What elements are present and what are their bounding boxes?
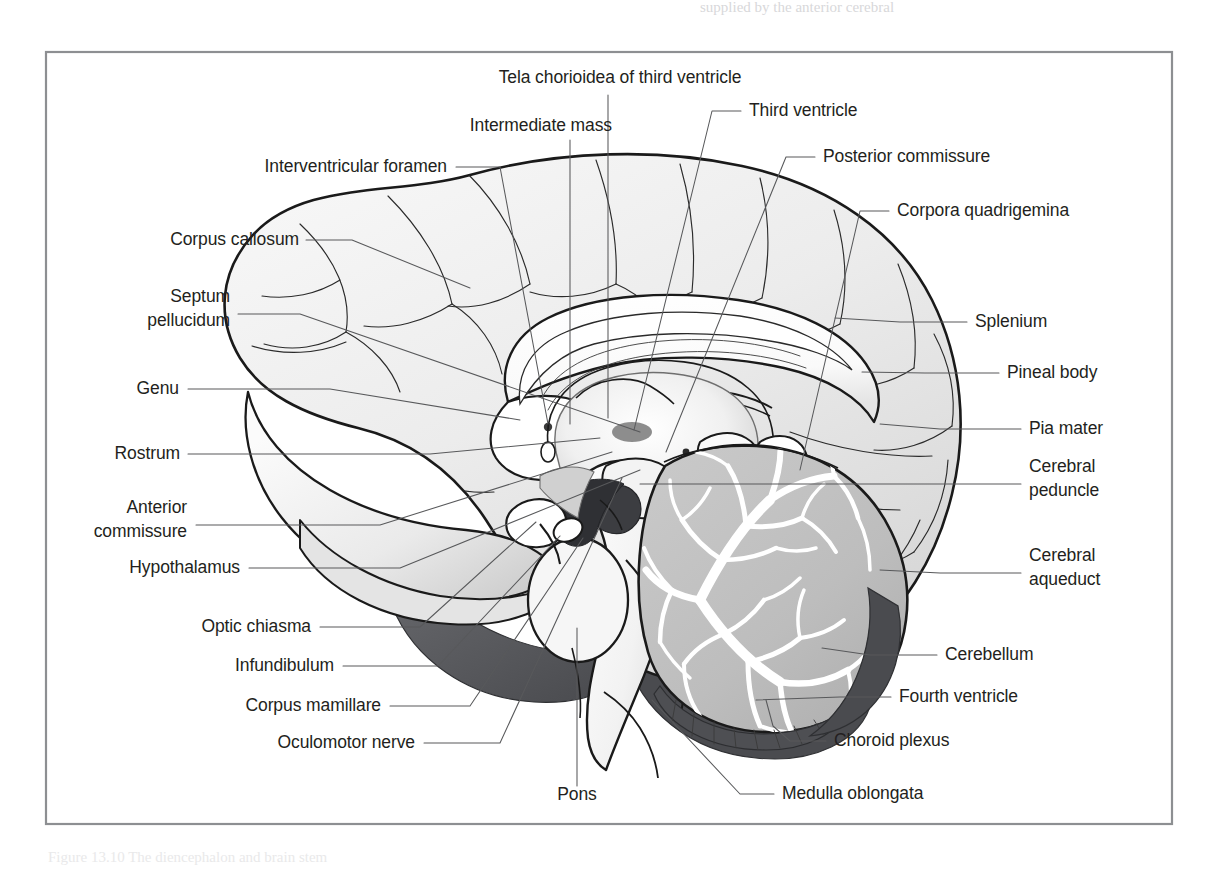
brain-illustration: [225, 154, 961, 778]
anterior-commissure: [541, 442, 555, 462]
label-optic-chiasma: Optic chiasma: [201, 616, 311, 636]
label-cerebral-peduncle-line1: Cerebral: [1029, 456, 1095, 476]
pons: [528, 538, 628, 662]
label-pons: Pons: [557, 784, 597, 804]
label-hypothalamus: Hypothalamus: [129, 557, 240, 577]
label-anterior-commissure-line1: Anterior: [127, 497, 188, 517]
label-posterior-commissure: Posterior commissure: [823, 146, 990, 166]
intermediate-mass-shape: [612, 422, 652, 442]
label-septum-pellucidum-line1: Septum: [170, 286, 230, 306]
label-infundibulum: Infundibulum: [235, 655, 334, 675]
brain-midsagittal-diagram: supplied by the anterior cerebral Figure…: [0, 0, 1216, 871]
label-medulla-oblongata: Medulla oblongata: [782, 783, 924, 803]
label-oculomotor-nerve: Oculomotor nerve: [278, 732, 416, 752]
label-fourth-ventricle: Fourth ventricle: [899, 686, 1018, 706]
label-choroid-plexus: Choroid plexus: [834, 730, 950, 750]
label-third-ventricle: Third ventricle: [749, 100, 857, 120]
label-corpora-quadrigemina: Corpora quadrigemina: [897, 200, 1069, 220]
label-corpus-callosum: Corpus callosum: [170, 229, 299, 249]
label-pia-mater: Pia mater: [1029, 418, 1103, 438]
labels-bottom: Pons: [557, 784, 597, 804]
label-anterior-commissure-line2: commissure: [94, 521, 187, 541]
partial-caption-bottom: Figure 13.10 The diencephalon and brain …: [48, 849, 328, 865]
label-intermediate-mass: Intermediate mass: [470, 115, 613, 135]
label-splenium: Splenium: [975, 311, 1047, 331]
label-genu: Genu: [137, 378, 179, 398]
label-tela-chorioidea: Tela chorioidea of third ventricle: [499, 67, 742, 87]
label-rostrum: Rostrum: [115, 443, 180, 463]
label-cerebellum: Cerebellum: [945, 644, 1033, 664]
label-cerebral-peduncle-line2: peduncle: [1029, 480, 1099, 500]
label-septum-pellucidum-line2: pellucidum: [147, 310, 230, 330]
label-pineal-body: Pineal body: [1007, 362, 1098, 382]
anatomy-figure-root: supplied by the anterior cerebral Figure…: [0, 0, 1216, 871]
label-cerebral-aqueduct-line1: Cerebral: [1029, 545, 1095, 565]
label-cerebral-aqueduct-line2: aqueduct: [1029, 569, 1100, 589]
label-corpus-mamillare: Corpus mamillare: [245, 695, 381, 715]
label-interventricular-foramen: Interventricular foramen: [265, 156, 447, 176]
partial-text-top: supplied by the anterior cerebral: [700, 0, 894, 15]
